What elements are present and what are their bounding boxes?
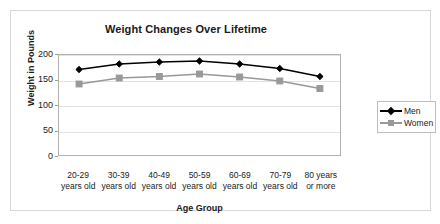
- legend-item-men[interactable]: Men: [380, 105, 432, 117]
- y-axis-tick-label: 200: [23, 50, 53, 59]
- data-point: [277, 65, 283, 71]
- chart-container: Weight Changes Over Lifetime Weight in P…: [10, 10, 431, 211]
- y-axis-tick-label: 100: [23, 101, 53, 110]
- data-point: [76, 66, 82, 72]
- x-axis-title: Age Group: [58, 203, 341, 213]
- x-axis-tick-label-line: 60-69: [218, 170, 262, 181]
- x-axis-tick-label: 30-39years old: [97, 170, 141, 192]
- data-point: [236, 61, 242, 67]
- data-point: [317, 86, 323, 92]
- data-point: [196, 58, 202, 64]
- legend-label: Women: [402, 118, 433, 128]
- y-axis-tick-label: 0: [23, 152, 53, 161]
- chart-legend: MenWomen: [377, 101, 436, 133]
- x-axis-tick-label-line: 50-59: [178, 170, 222, 181]
- x-axis-tick-label-line: years old: [56, 181, 100, 192]
- legend-marker-diamond-icon: [387, 107, 395, 115]
- series-layer: [59, 55, 340, 155]
- x-axis-tick-label-line: years old: [137, 181, 181, 192]
- x-axis-tick-label-line: 40-49: [137, 170, 181, 181]
- legend-label: Men: [402, 106, 421, 116]
- x-axis-tick-label: 50-59years old: [178, 170, 222, 192]
- legend-marker-square-icon: [388, 120, 394, 126]
- data-point: [156, 74, 162, 80]
- legend-item-women[interactable]: Women: [380, 117, 432, 129]
- x-axis-tick-label: 40-49years old: [137, 170, 181, 192]
- y-axis-tick-label: 150: [23, 75, 53, 84]
- x-axis-tick-label-line: years old: [178, 181, 222, 192]
- x-axis-tick-label: 20-29years old: [56, 170, 100, 192]
- legend-key-icon: [380, 117, 402, 129]
- data-point: [116, 61, 122, 67]
- x-axis-tick-label-line: years old: [258, 181, 302, 192]
- data-point: [116, 75, 122, 81]
- data-point: [76, 81, 82, 87]
- x-axis-tick-label: 60-69years old: [218, 170, 262, 192]
- data-point: [156, 59, 162, 65]
- x-axis-tick-label-line: 30-39: [97, 170, 141, 181]
- data-point: [197, 71, 203, 77]
- data-point: [317, 73, 323, 79]
- y-axis-tick-label: 50: [23, 126, 53, 135]
- plot-area: [58, 54, 341, 156]
- legend-key-icon: [380, 105, 402, 117]
- x-axis-tick-label-line: years old: [97, 181, 141, 192]
- chart-title: Weight Changes Over Lifetime: [11, 23, 361, 35]
- x-axis-tick-label-line: 20-29: [56, 170, 100, 181]
- y-axis-tick-mark: [55, 156, 58, 157]
- x-axis-tick-label: 70-79years old: [258, 170, 302, 192]
- x-axis-tick-label: 80 yearsor more: [299, 170, 343, 192]
- x-axis-tick-label-line: 70-79: [258, 170, 302, 181]
- y-axis-title: Weight in Pounds: [26, 8, 36, 128]
- x-axis-tick-label-line: or more: [299, 181, 343, 192]
- x-axis-tick-label-line: 80 years: [299, 170, 343, 181]
- x-axis-tick-label-line: years old: [218, 181, 262, 192]
- data-point: [237, 74, 243, 80]
- data-point: [277, 78, 283, 84]
